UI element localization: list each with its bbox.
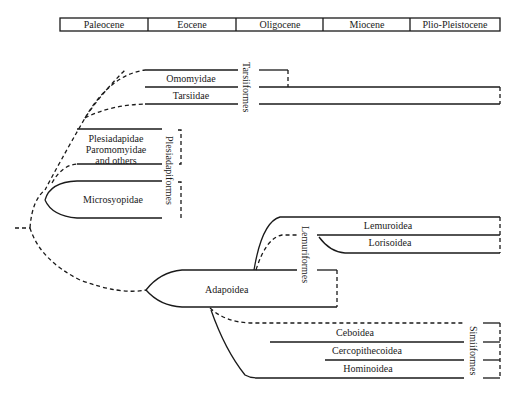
taxon-adapoidea: Adapoidea	[205, 284, 249, 295]
primate-phylogeny-diagram: Paleocene Eocene Oligocene Miocene Plio-…	[0, 0, 518, 393]
group-simiiformes: Simiiformes	[468, 326, 479, 376]
epoch-eocene: Eocene	[177, 19, 207, 30]
taxon-plesiadapidae: Plesiadapidae	[89, 133, 145, 144]
group-plesiadapiformes: Plesiadapiformes	[164, 136, 175, 205]
taxon-omomyidae: Omomyidae	[166, 73, 216, 84]
epoch-header: Paleocene Eocene Oligocene Miocene Plio-…	[60, 18, 500, 31]
taxon-paromomyidae: Paromomyidae	[86, 144, 147, 155]
group-tarsiiformes: Tarsiiformes	[241, 62, 252, 113]
epoch-paleocene: Paleocene	[84, 19, 125, 30]
epoch-plio-pleistocene: Plio-Pleistocene	[423, 19, 489, 30]
taxon-lorisoidea: Lorisoidea	[369, 237, 412, 248]
taxon-ceboidea: Ceboidea	[336, 327, 374, 338]
lemuriformes-clade: Lemuroidea Lorisoidea Lemuriformes	[254, 217, 500, 283]
taxon-cercopithecoidea: Cercopithecoidea	[332, 345, 403, 356]
epoch-miocene: Miocene	[350, 19, 386, 30]
plesiadapiformes-clade: Plesiadapidae Paromomyidae and others Mi…	[45, 129, 181, 218]
taxon-and-others: and others	[95, 155, 136, 166]
taxon-hominoidea: Hominoidea	[343, 363, 393, 374]
taxon-microsyopidae: Microsyopidae	[83, 194, 144, 205]
tarsiiformes-clade: Omomyidae Tarsiidae Tarsiiformes	[85, 62, 500, 118]
group-lemuriformes: Lemuriformes	[300, 226, 311, 283]
simiiformes-clade: Ceboidea Cercopithecoidea Hominoidea Sim…	[210, 308, 500, 378]
epoch-oligocene: Oligocene	[259, 19, 301, 30]
taxon-lemuroidea: Lemuroidea	[364, 220, 413, 231]
taxon-tarsiidae: Tarsiidae	[173, 90, 210, 101]
